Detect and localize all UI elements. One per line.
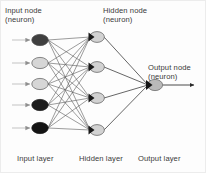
layer-label-hidden: Hidden layer bbox=[79, 154, 123, 163]
input-node-group bbox=[32, 34, 48, 133]
input-node-3 bbox=[32, 78, 48, 89]
input-node-4 bbox=[32, 99, 48, 110]
caption-output-node: Output node (neuron) bbox=[148, 63, 191, 81]
input-node-1 bbox=[32, 34, 48, 45]
layer-label-input: Input layer bbox=[17, 154, 54, 163]
neural-network-diagram: Input node (neuron) Hidden node (neuron)… bbox=[0, 0, 206, 173]
caption-hidden-node: Hidden node (neuron) bbox=[103, 6, 147, 24]
edges-input-hidden bbox=[48, 37, 90, 130]
edges-hidden-output bbox=[104, 37, 148, 130]
caption-input-node: Input node (neuron) bbox=[5, 6, 42, 24]
network-graphic bbox=[0, 0, 206, 173]
hidden-node-group bbox=[89, 32, 105, 136]
input-arrow-group bbox=[12, 40, 30, 128]
input-node-5 bbox=[32, 122, 48, 133]
layer-label-output: Output layer bbox=[138, 154, 181, 163]
input-node-2 bbox=[32, 57, 48, 68]
